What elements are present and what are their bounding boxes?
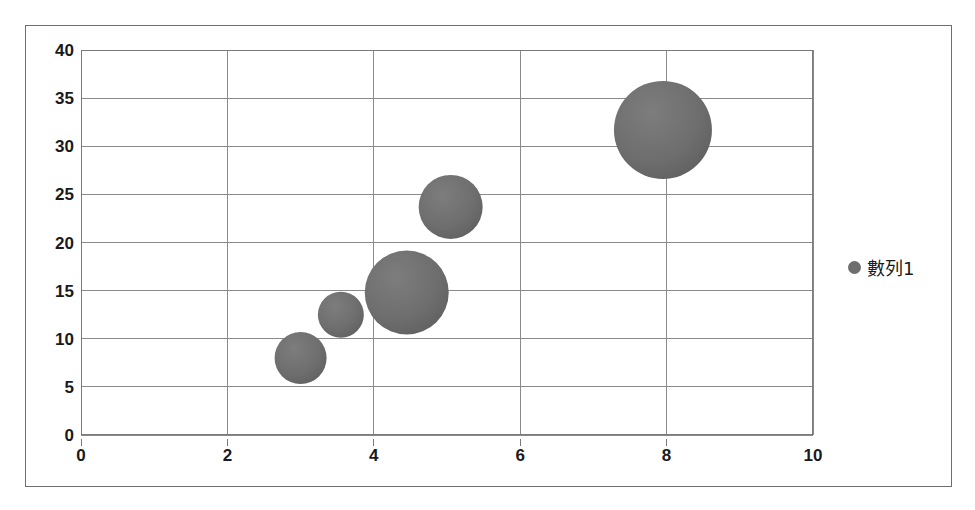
y-axis-tick-label: 15: [55, 283, 74, 300]
legend-series-label: 數列1: [867, 254, 914, 280]
y-axis-tick-label: 40: [55, 42, 74, 59]
x-axis-tick-label: 8: [645, 447, 689, 464]
plot-svg: [81, 50, 813, 435]
data-bubble: [275, 332, 327, 384]
y-axis-tick-label: 0: [65, 427, 74, 444]
y-axis-tick-label: 10: [55, 331, 74, 348]
x-axis-tick-label: 0: [59, 447, 103, 464]
y-axis-tick-labels: 0510152025303540: [34, 50, 74, 435]
series-marker-icon: [848, 261, 861, 274]
y-axis-tick-label: 20: [55, 235, 74, 252]
chart-frame: 0510152025303540 0246810 數列1: [25, 25, 952, 487]
y-axis-tick-label: 25: [55, 186, 74, 203]
plot-area: [81, 50, 813, 435]
y-axis-tick-label: 35: [55, 90, 74, 107]
x-axis-tick-label: 4: [352, 447, 396, 464]
x-axis-tick-labels: 0246810: [81, 447, 813, 473]
x-axis-tick-label: 2: [205, 447, 249, 464]
x-axis-tick-marks: [81, 435, 813, 445]
data-bubble: [365, 251, 449, 335]
x-axis-tick-label: 6: [498, 447, 542, 464]
data-bubble: [318, 292, 364, 338]
data-bubble: [614, 81, 712, 179]
y-axis-tick-label: 30: [55, 138, 74, 155]
data-bubble: [419, 175, 483, 239]
chart-legend[interactable]: 數列1: [848, 254, 914, 280]
y-axis-tick-label: 5: [65, 379, 74, 396]
x-axis-tick-label: 10: [791, 447, 835, 464]
